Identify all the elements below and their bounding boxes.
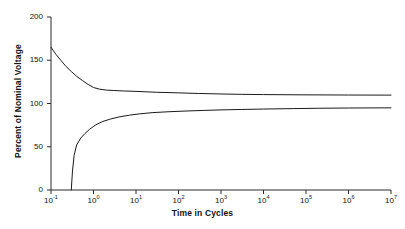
y-tick-label: 150 [13,55,43,64]
series-line-0 [51,47,391,95]
series-line-1 [71,108,391,190]
x-tick-label: 102 [164,196,194,205]
data-series-group [51,47,391,190]
x-tick-label: 101 [121,196,151,205]
y-tick-label: 50 [13,142,43,151]
tick-marks-group [47,17,391,194]
x-axis-label: Time in Cycles [0,208,405,218]
x-tick-label: 100 [79,196,109,205]
y-tick-label: 100 [13,99,43,108]
x-tick-label: 104 [249,196,279,205]
y-tick-label: 0 [13,185,43,194]
x-tick-label: 103 [206,196,236,205]
y-tick-label: 200 [13,12,43,21]
axes-group [51,17,391,190]
x-tick-label: 107 [376,196,405,205]
chart-figure: Percent of Nominal Voltage Time in Cycle… [0,0,405,229]
plot-canvas [0,0,405,229]
x-tick-label: 106 [334,196,364,205]
x-tick-label: 10-1 [36,196,66,205]
x-tick-label: 105 [291,196,321,205]
